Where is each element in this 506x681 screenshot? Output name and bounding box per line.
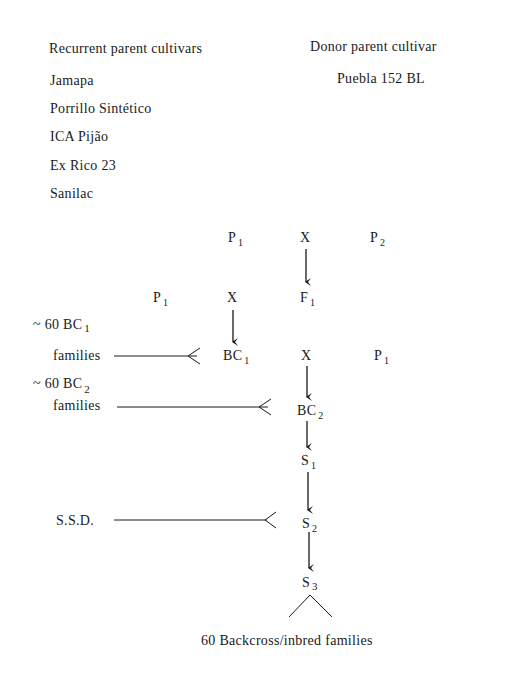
s3-split-connector bbox=[289, 595, 332, 617]
bc2-families-connector bbox=[117, 399, 271, 415]
bc1-families-connector bbox=[114, 348, 200, 364]
scheme-connectors bbox=[0, 0, 506, 681]
ssd-connector bbox=[114, 512, 276, 528]
